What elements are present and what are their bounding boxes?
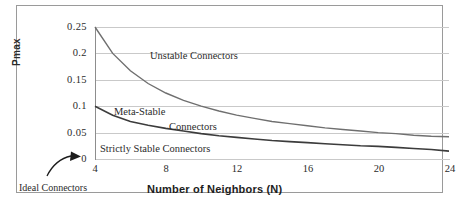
curve-unstable-boundary xyxy=(95,27,449,137)
annotation-meta-stable: Meta-Stable xyxy=(114,106,165,117)
annotation-ideal-connectors: Ideal Connectors xyxy=(19,182,87,193)
annotation-unstable-connectors: Unstable Connectors xyxy=(150,50,238,61)
annotation-meta-stable-connectors: Connectors xyxy=(169,121,217,132)
ideal-connectors-arrow xyxy=(41,146,121,186)
chart-figure: 0.25 0.2 0.15 0.1 0.05 0 4 8 12 16 20 24… xyxy=(0,0,463,208)
chart-frame: 0.25 0.2 0.15 0.1 0.05 0 4 8 12 16 20 24… xyxy=(16,5,443,193)
